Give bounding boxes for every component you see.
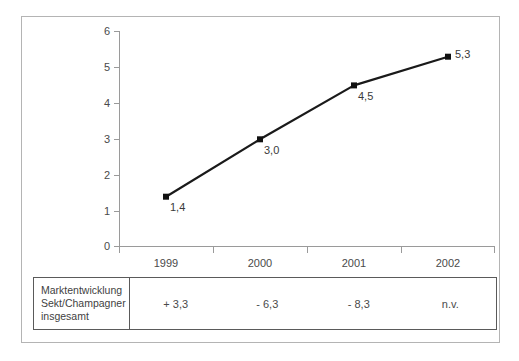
data-point-markers <box>163 54 451 200</box>
table-cell-1999: + 3,3 <box>130 298 222 310</box>
chart-figure: 6 5 4 3 2 1 0 1999 2000 2001 2002 1,4 3,… <box>0 0 519 361</box>
y-tick-label-2: 2 <box>90 170 110 181</box>
x-tick-label-2000: 2000 <box>230 258 290 269</box>
x-tick-label-1999: 1999 <box>136 258 196 269</box>
data-point-label-2001: 4,5 <box>358 91 373 102</box>
plot-svg <box>0 0 519 265</box>
x-tick-label-2002: 2002 <box>418 258 478 269</box>
data-series-line <box>166 57 448 197</box>
data-point-marker <box>163 194 169 200</box>
table-cell-2000: - 6,3 <box>222 298 314 310</box>
data-point-marker <box>445 54 451 60</box>
y-tick-label-4: 4 <box>90 98 110 109</box>
y-tick-label-0: 0 <box>90 241 110 252</box>
y-tick-label-6: 6 <box>90 26 110 37</box>
y-tick-label-1: 1 <box>90 206 110 217</box>
data-point-marker <box>257 136 263 142</box>
market-development-table: Marktentwicklung Sekt/Champagner insgesa… <box>33 277 497 330</box>
data-point-label-1999: 1,4 <box>170 202 185 213</box>
x-tick-label-2001: 2001 <box>324 258 384 269</box>
y-tick-label-3: 3 <box>90 134 110 145</box>
data-point-label-2000: 3,0 <box>264 145 279 156</box>
y-tick-label-5: 5 <box>90 62 110 73</box>
x-axis-ticks <box>120 247 495 253</box>
table-row-header-line-2: Sekt/Champagner <box>41 297 129 310</box>
table-row-header-line-1: Marktentwicklung <box>41 284 129 297</box>
y-axis-ticks <box>114 32 119 247</box>
line-chart-plot: 6 5 4 3 2 1 0 1999 2000 2001 2002 1,4 3,… <box>0 0 519 265</box>
table-cell-2002: n.v. <box>405 298 497 310</box>
table-row: + 3,3 - 6,3 - 8,3 n.v. <box>130 278 496 329</box>
table-row-header-line-3: insgesamt <box>41 310 129 323</box>
data-point-marker <box>351 82 357 88</box>
table-row-header: Marktentwicklung Sekt/Champagner insgesa… <box>34 278 130 329</box>
table-cell-2001: - 8,3 <box>313 298 405 310</box>
data-point-label-2002: 5,3 <box>455 49 470 60</box>
